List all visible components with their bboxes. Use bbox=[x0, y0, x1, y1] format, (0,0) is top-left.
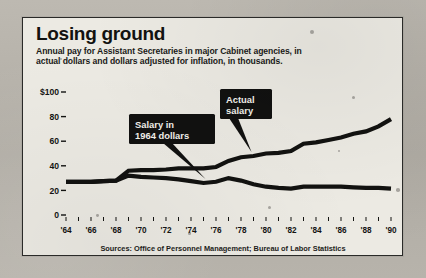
x-axis: '64'66'68'70'72'74'76'78'80'82'84'86'88'… bbox=[60, 217, 397, 235]
source-note: Sources: Office of Personnel Management;… bbox=[100, 244, 345, 253]
x-tick-label: '90 bbox=[385, 226, 397, 235]
x-tick-label: '66 bbox=[85, 226, 97, 235]
constant-dollars-callout-line1: Salary in bbox=[135, 119, 174, 130]
x-axis-minor-ticks bbox=[66, 217, 391, 221]
scan-artifact bbox=[188, 232, 191, 235]
y-tick-label: $100 bbox=[40, 87, 59, 97]
y-axis: $100806040200 bbox=[40, 87, 66, 220]
screenshot-root: Losing ground Annual pay for Assistant S… bbox=[0, 0, 426, 278]
x-tick-label: '84 bbox=[310, 226, 322, 235]
x-tick-label: '64 bbox=[60, 226, 72, 235]
y-tick-label: 80 bbox=[49, 112, 59, 122]
actual-salary-callout-pointer bbox=[229, 118, 252, 152]
chart-series-group bbox=[66, 119, 391, 189]
y-tick-label: 60 bbox=[49, 136, 59, 146]
constant-dollars-callout-pointer bbox=[163, 143, 206, 179]
constant-dollars-callout-line2: 1964 dollars bbox=[135, 130, 189, 141]
x-tick-label: '78 bbox=[235, 226, 247, 235]
actual-salary-callout-line1: Actual bbox=[226, 94, 255, 105]
scan-artifact bbox=[396, 188, 400, 192]
x-axis-ticks: '64'66'68'70'72'74'76'78'80'82'84'86'88'… bbox=[60, 226, 397, 235]
series-line-actual-salary bbox=[66, 119, 391, 182]
series-line-constant-1964-dollars bbox=[66, 176, 391, 189]
x-tick-label: '80 bbox=[260, 226, 272, 235]
x-tick-label: '72 bbox=[160, 226, 172, 235]
x-tick-label: '88 bbox=[360, 226, 372, 235]
y-axis-ticks: $100806040200 bbox=[40, 87, 66, 220]
line-chart: $100806040200 '64'66'68'70'72'74'76'78'8… bbox=[23, 18, 404, 257]
scan-artifact bbox=[96, 214, 99, 217]
scan-artifact bbox=[310, 30, 314, 34]
chart-annotations: Salary in1964 dollarsActualsalary bbox=[129, 89, 272, 179]
chart-card: Losing ground Annual pay for Assistant S… bbox=[22, 17, 403, 256]
scan-artifact bbox=[352, 96, 355, 99]
x-tick-label: '70 bbox=[135, 226, 147, 235]
x-tick-label: '76 bbox=[210, 226, 222, 235]
x-tick-label: '68 bbox=[110, 226, 122, 235]
y-tick-label: 20 bbox=[49, 186, 59, 196]
y-tick-label: 40 bbox=[49, 161, 59, 171]
actual-salary-callout-line2: salary bbox=[226, 105, 254, 116]
y-tick-label: 0 bbox=[54, 210, 59, 220]
x-tick-label: '82 bbox=[285, 226, 297, 235]
x-tick-label: '86 bbox=[335, 226, 347, 235]
